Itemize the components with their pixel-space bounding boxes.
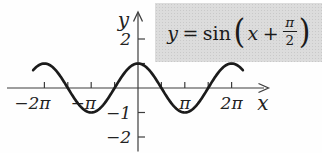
equation-fraction: π 2 <box>283 15 297 47</box>
equation-function-name: sin <box>203 22 231 44</box>
x-axis-label: x <box>257 91 268 115</box>
y-tick-label: −1 <box>106 103 131 123</box>
equation-fraction-numerator: π <box>283 15 297 32</box>
equation-box: y = sin ( x + π 2 ) <box>155 3 322 62</box>
equation-equals: = <box>182 22 198 44</box>
equation-arg-var: x <box>248 22 259 44</box>
equation-plus: + <box>263 22 279 44</box>
figure: −2π−ππ2π2−1−2yx y = sin ( x + π 2 ) <box>0 0 322 153</box>
equation-lhs-var: y <box>167 22 178 44</box>
x-tick-label: 2π <box>220 93 244 113</box>
x-tick-label: −2π <box>14 93 51 113</box>
y-tick-label: −2 <box>106 127 131 147</box>
equation-fraction-denominator: 2 <box>285 32 294 48</box>
y-tick-label: 2 <box>119 29 131 49</box>
y-axis-label: y <box>117 8 130 32</box>
